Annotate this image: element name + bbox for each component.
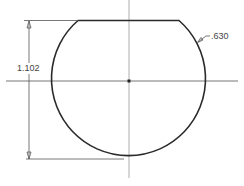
- profile-outline: [51, 21, 205, 156]
- radius-dimension-label: .630: [211, 31, 229, 41]
- height-dimension-label: 1.102: [17, 63, 40, 73]
- center-point: [128, 80, 131, 83]
- technical-drawing: [0, 0, 244, 186]
